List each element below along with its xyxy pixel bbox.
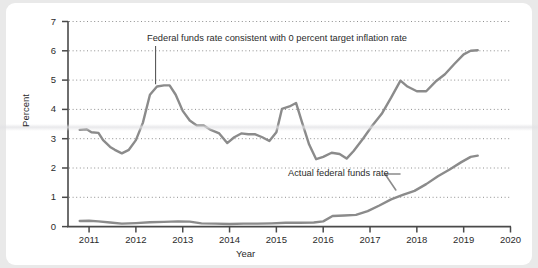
x-tick-label: 2020 (491, 234, 531, 245)
x-tick-label: 2016 (303, 234, 343, 245)
series-line-actual-rate (80, 156, 478, 224)
x-tick-label: 2014 (210, 234, 250, 245)
x-axis-label: Year (236, 248, 255, 259)
axis-ticks (62, 22, 511, 233)
x-tick-label: 2012 (116, 234, 156, 245)
y-tick-label: 1 (38, 191, 56, 202)
y-tick-label: 2 (38, 162, 56, 173)
y-tick-label: 0 (38, 221, 56, 232)
annotation-actual-rate: Actual federal funds rate (288, 168, 389, 179)
y-axis-label: Percent (20, 81, 31, 141)
x-tick-label: 2017 (350, 234, 390, 245)
x-tick-label: 2018 (397, 234, 437, 245)
x-tick-label: 2019 (444, 234, 484, 245)
x-tick-label: 2015 (256, 234, 296, 245)
x-tick-label: 2011 (69, 234, 109, 245)
y-tick-label: 4 (38, 103, 56, 114)
y-tick-label: 3 (38, 133, 56, 144)
x-tick-label: 2013 (163, 234, 203, 245)
y-tick-label: 7 (38, 16, 56, 27)
series-line-consistent-rate (80, 50, 478, 159)
y-tick-label: 5 (38, 74, 56, 85)
y-tick-label: 6 (38, 45, 56, 56)
annotation-consistent-rate: Federal funds rate consistent with 0 per… (147, 33, 407, 44)
